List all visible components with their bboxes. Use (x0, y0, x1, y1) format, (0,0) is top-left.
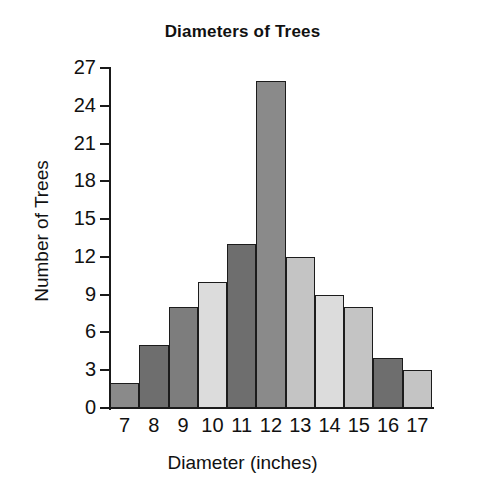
bar (315, 295, 344, 408)
x-tick-label: 17 (403, 412, 432, 438)
x-axis-title: Diameter (inches) (0, 452, 485, 474)
bar (139, 345, 168, 408)
x-tick-label: 16 (373, 412, 402, 438)
x-tick-label: 9 (169, 412, 198, 438)
y-tick-mark (100, 256, 110, 258)
bar (256, 81, 285, 408)
y-tick-label: 3 (38, 359, 96, 379)
x-tick-label: 10 (198, 412, 227, 438)
y-tick-mark (100, 294, 110, 296)
bar (344, 307, 373, 408)
x-tick-label: 13 (286, 412, 315, 438)
y-tick-mark (100, 67, 110, 69)
x-tick-labels: 7891011121314151617 (110, 412, 432, 442)
bar (403, 370, 432, 408)
bar (373, 358, 402, 408)
bar (227, 244, 256, 408)
y-tick-mark (100, 369, 110, 371)
plot-area (110, 68, 432, 408)
x-tick-label: 14 (315, 412, 344, 438)
y-tick-mark (100, 407, 110, 409)
x-tick-label: 11 (227, 412, 256, 438)
bar (198, 282, 227, 408)
bar (110, 383, 139, 408)
y-tick-label: 27 (38, 57, 96, 77)
y-tick-mark (100, 331, 110, 333)
y-tick-mark (100, 218, 110, 220)
y-tick-mark (100, 180, 110, 182)
x-tick-label: 15 (344, 412, 373, 438)
y-tick-label: 0 (38, 397, 96, 417)
chart-container: Diameters of Trees 0369121518212427 Numb… (0, 0, 485, 495)
y-tick-mark (100, 143, 110, 145)
x-tick-label: 12 (256, 412, 285, 438)
bar (169, 307, 198, 408)
x-tick-label: 8 (139, 412, 168, 438)
y-tick-mark (100, 105, 110, 107)
bar (286, 257, 315, 408)
y-axis-title: Number of Trees (31, 106, 53, 356)
x-tick-label: 7 (110, 412, 139, 438)
